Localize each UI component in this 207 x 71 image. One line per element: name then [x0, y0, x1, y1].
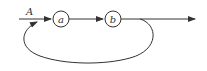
node-a: a [53, 11, 69, 27]
node-b: b [105, 11, 121, 27]
input-label: A [25, 6, 33, 17]
feedback-loop [24, 19, 153, 63]
node-b-label: b [110, 14, 116, 25]
input-edge: A [19, 6, 51, 19]
flow-diagram: A a b [0, 0, 207, 71]
node-a-label: a [58, 14, 64, 25]
